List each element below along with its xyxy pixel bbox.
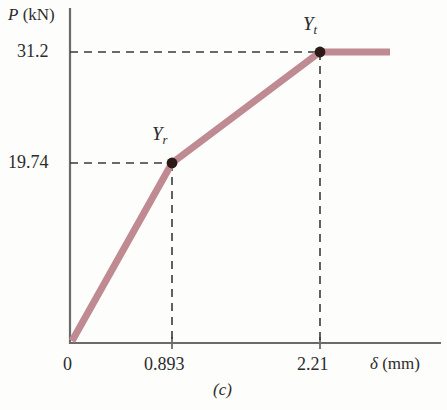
y-axis-title: P (kN) xyxy=(8,6,55,23)
annotation-label-yt: Yt xyxy=(303,14,317,33)
y-tick-label-1974: 19.74 xyxy=(8,153,49,171)
x-tick-label-221: 2.21 xyxy=(297,355,329,373)
y-axis-symbol: P xyxy=(8,5,18,24)
x-tick-label-0893: 0.893 xyxy=(144,355,185,373)
data-point-marker-yr xyxy=(167,158,178,169)
x-axis-title: δ (mm) xyxy=(370,355,420,372)
x-axis-unit: (mm) xyxy=(382,354,420,373)
y-axis-unit: (kN) xyxy=(23,5,55,24)
annotation-label-yr: Yr xyxy=(152,124,168,143)
x-tick-label-origin: 0 xyxy=(63,355,72,373)
y-tick-label-312: 31.2 xyxy=(17,42,49,60)
annotation-subscript-yr: r xyxy=(163,132,168,147)
annotation-symbol-yr: Y xyxy=(152,123,163,144)
figure-caption: (c) xyxy=(213,381,232,398)
annotation-subscript-yt: t xyxy=(314,22,318,37)
data-point-marker-yt xyxy=(315,47,326,58)
chart-canvas xyxy=(0,0,447,410)
figure-panel: P (kN) 31.2 19.74 0 0.893 2.21 δ (mm) Yr… xyxy=(0,0,447,410)
load-deflection-curve xyxy=(72,52,390,341)
x-axis-symbol: δ xyxy=(370,354,378,373)
annotation-symbol-yt: Y xyxy=(303,13,314,34)
